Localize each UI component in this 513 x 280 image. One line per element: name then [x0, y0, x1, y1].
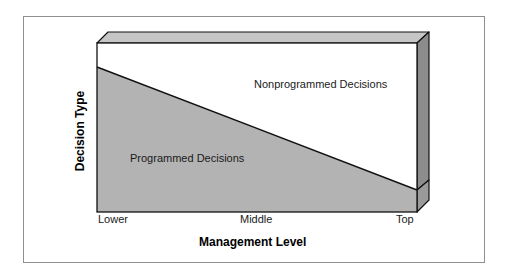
x-tick-top: Top: [396, 214, 414, 225]
programmed-label: Programmed Decisions: [130, 153, 244, 164]
x-axis-label: Management Level: [199, 236, 306, 248]
top-bevel: [97, 32, 429, 43]
side-panel-upper: [417, 32, 429, 190]
x-tick-middle: Middle: [240, 214, 272, 225]
x-tick-lower: Lower: [98, 214, 128, 225]
nonprogrammed-label: Nonprogrammed Decisions: [254, 79, 387, 90]
y-axis-label: Decision Type: [74, 91, 86, 171]
